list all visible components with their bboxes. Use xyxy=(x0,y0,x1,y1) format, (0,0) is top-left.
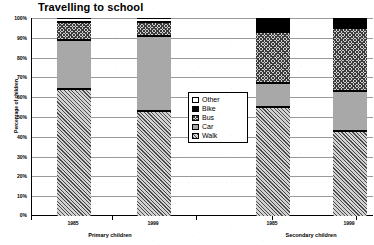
y-tick-label-20: 20% xyxy=(0,173,27,179)
chart-legend: Other Bike Bus Car Walk xyxy=(188,92,248,143)
bar-segment-other xyxy=(57,18,91,22)
legend-swatch-other-icon xyxy=(192,97,199,103)
bar-segment-car xyxy=(137,36,171,111)
legend-item-other: Other xyxy=(192,95,244,104)
bar-segment-walk xyxy=(333,131,367,216)
bar-segment-walk xyxy=(137,111,171,216)
x-group-label-primary: Primary children xyxy=(40,232,180,238)
legend-item-walk: Walk xyxy=(192,131,244,140)
bar-segment-walk xyxy=(57,89,91,216)
legend-label-other: Other xyxy=(202,96,220,104)
x-axis-tick xyxy=(31,216,32,220)
x-label-secondary-1985: 1985 xyxy=(242,220,302,226)
y-tick-label-0: 0% xyxy=(0,212,27,218)
y-tick-label-10: 10% xyxy=(0,193,27,199)
legend-swatch-car-icon xyxy=(192,124,199,130)
bar-segment-other xyxy=(137,18,171,22)
y-tick-label-80: 80% xyxy=(0,55,27,61)
y-tick-label-90: 90% xyxy=(0,35,27,41)
legend-swatch-walk-icon xyxy=(192,133,199,139)
bar-segment-other xyxy=(333,18,367,20)
legend-label-walk: Walk xyxy=(202,132,217,140)
bar-segment-bus xyxy=(57,22,91,40)
bar-segment-bike xyxy=(333,20,367,28)
x-label-primary-1985: 1985 xyxy=(43,220,103,226)
y-tick-label-40: 40% xyxy=(0,134,27,140)
legend-label-car: Car xyxy=(202,123,213,131)
bar-segment-bus xyxy=(256,32,290,84)
legend-item-car: Car xyxy=(192,122,244,131)
legend-label-bus: Bus xyxy=(202,114,214,122)
y-tick-label-50: 50% xyxy=(0,114,27,120)
x-label-primary-1999: 1999 xyxy=(123,220,183,226)
bar-segment-car xyxy=(57,40,91,90)
y-tick-label-70: 70% xyxy=(0,74,27,80)
y-tick-label-100: 100% xyxy=(0,15,27,21)
legend-swatch-bike-icon xyxy=(192,106,199,112)
y-axis-title: Percentage of children xyxy=(13,56,19,156)
bar-segment-car xyxy=(333,91,367,131)
legend-item-bike: Bike xyxy=(192,104,244,113)
y-tick-label-60: 60% xyxy=(0,94,27,100)
bar-segment-bike xyxy=(256,20,290,32)
bar-chart: Travelling to school Percentage of child… xyxy=(0,0,374,245)
x-axis-tick xyxy=(112,216,113,220)
bar-segment-car xyxy=(256,83,290,107)
y-tick-label-30: 30% xyxy=(0,154,27,160)
legend-item-bus: Bus xyxy=(192,113,244,122)
chart-title: Travelling to school xyxy=(38,1,143,13)
x-group-label-secondary: Secondary children xyxy=(241,232,374,238)
x-label-secondary-1999: 1999 xyxy=(319,220,374,226)
bar-segment-walk xyxy=(256,107,290,216)
x-axis-tick xyxy=(196,216,197,220)
legend-label-bike: Bike xyxy=(202,105,216,113)
bar-segment-bus xyxy=(137,22,171,36)
bar-segment-bus xyxy=(333,28,367,91)
bar-segment-other xyxy=(256,18,290,20)
legend-swatch-bus-icon xyxy=(192,115,199,121)
